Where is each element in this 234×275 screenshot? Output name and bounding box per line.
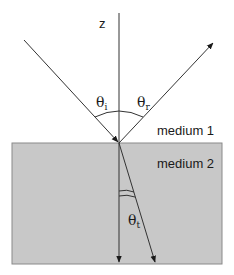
medium-2-label: medium 2 — [157, 156, 214, 171]
refraction-diagram: z θi θr θt medium 1 medium 2 — [0, 0, 234, 275]
theta-i-label: θi — [96, 94, 107, 112]
theta-r-label: θr — [137, 94, 150, 112]
medium-1-label: medium 1 — [157, 123, 214, 138]
z-axis-label: z — [99, 16, 106, 31]
incident-ray — [24, 40, 118, 142]
